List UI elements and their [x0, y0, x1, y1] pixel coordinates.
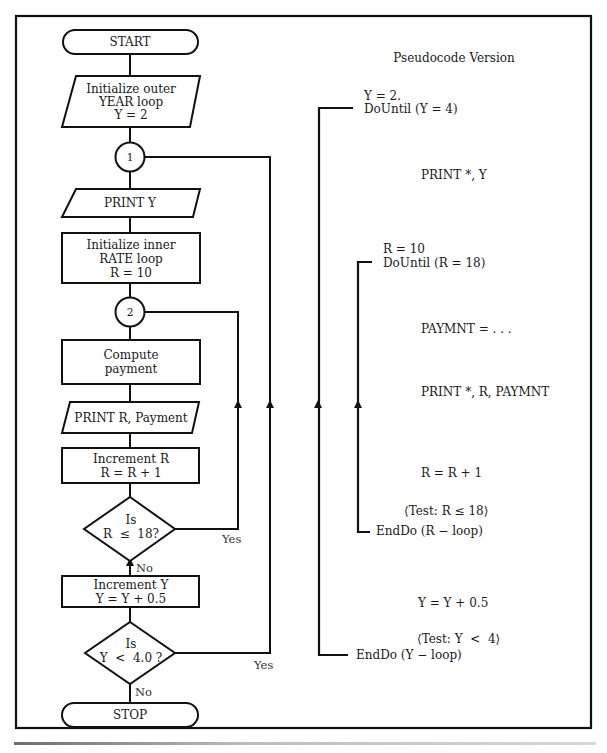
- code-y-dountil: DoUntil (Y = 4): [364, 102, 458, 116]
- decision-r-yes-label: Yes: [221, 532, 241, 546]
- print-r-label: PRINT R, Payment: [74, 411, 188, 425]
- connector-2-label: 2: [127, 306, 134, 318]
- decision-y-yes-label: Yes: [253, 658, 273, 672]
- increment-y-line-2: Y = Y + 0.5: [95, 592, 166, 606]
- arrow-up-icon: [234, 400, 242, 408]
- code-r-test: ⟨Test: R ≤ 18⟩: [404, 504, 488, 518]
- increment-r-process: Increment R R = R + 1: [62, 448, 199, 483]
- start-terminal: START: [63, 30, 198, 54]
- init-inner-process: Initialize inner RATE loop R = 10: [62, 233, 200, 283]
- decision-r-no-label: No: [136, 561, 153, 575]
- init-inner-line-1: Initialize inner: [86, 238, 175, 252]
- code-y-enddo: EndDo (Y − loop): [356, 648, 462, 662]
- decision-y-line-2: Y < 4.0 ?: [99, 651, 163, 665]
- stop-label: STOP: [113, 708, 147, 722]
- code-print-y: PRINT *, Y: [421, 168, 488, 182]
- code-paymnt: PAYMNT = . . .: [421, 322, 512, 336]
- compute-line-1: Compute: [103, 348, 158, 362]
- code-r-inc: R = R + 1: [421, 466, 482, 480]
- print-y-label: PRINT Y: [104, 196, 157, 210]
- init-inner-line-2: RATE loop: [99, 252, 163, 266]
- decision-y-line-1: Is: [126, 637, 137, 651]
- code-y-init: Y = 2.: [363, 89, 401, 103]
- connector-1: 1: [116, 143, 145, 172]
- pseudocode-lines: Y = 2. DoUntil (Y = 4) PRINT *, Y R = 10…: [356, 89, 549, 662]
- start-label: START: [109, 35, 150, 49]
- print-r-io: PRINT R, Payment: [62, 402, 199, 433]
- code-r-enddo: EndDo (R − loop): [376, 524, 483, 538]
- pseudocode-title: Pseudocode Version: [393, 51, 515, 65]
- flowchart-figure: START Initialize outer YEAR loop Y = 2 1…: [0, 0, 607, 753]
- decision-r-line-1: Is: [126, 513, 137, 527]
- stop-terminal: STOP: [62, 703, 198, 727]
- connector-2: 2: [116, 298, 145, 327]
- increment-y-line-1: Increment Y: [94, 578, 170, 592]
- init-outer-io: Initialize outer YEAR loop Y = 2: [62, 76, 200, 127]
- decision-y: Is Y < 4.0 ?: [85, 622, 175, 684]
- connector-1-label: 1: [127, 151, 134, 163]
- init-outer-line-1: Initialize outer: [86, 82, 176, 96]
- init-outer-line-2: YEAR loop: [98, 95, 163, 109]
- code-r-dountil: DoUntil (R = 18): [383, 256, 485, 270]
- code-print-r: PRINT *, R, PAYMNT: [421, 385, 549, 399]
- compute-line-2: payment: [105, 362, 158, 376]
- increment-r-line-2: R = R + 1: [100, 466, 161, 480]
- arrow-up-icon: [266, 400, 274, 408]
- pseudocode-brackets: [319, 108, 372, 655]
- init-outer-line-3: Y = 2: [113, 108, 147, 122]
- code-y-inc: Y = Y + 0.5: [417, 596, 488, 610]
- increment-r-line-1: Increment R: [93, 452, 170, 466]
- decision-r-line-2: R ≤ 18?: [103, 527, 159, 541]
- code-y-test: ⟨Test: Y < 4⟩: [417, 632, 500, 646]
- increment-y-process: Increment Y Y = Y + 0.5: [62, 576, 199, 607]
- print-y-io: PRINT Y: [62, 189, 200, 217]
- footer-rule: [14, 742, 596, 745]
- compute-payment-process: Compute payment: [62, 340, 200, 384]
- decision-y-no-label: No: [135, 685, 152, 699]
- init-inner-line-3: R = 10: [110, 266, 152, 280]
- decision-r: Is R ≤ 18?: [84, 497, 175, 561]
- code-r-init: R = 10: [383, 242, 425, 256]
